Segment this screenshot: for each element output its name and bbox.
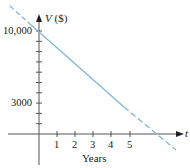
line-extrapolation-left xyxy=(10,6,30,24)
x-tick-label-5: 5 xyxy=(127,140,132,151)
x-axis-arrow-icon xyxy=(176,131,184,137)
x-tick-label-4: 4 xyxy=(108,140,113,151)
x-tick-label-1: 1 xyxy=(54,140,59,151)
x-tick-label-3: 3 xyxy=(90,140,95,151)
x-axis-title: Years xyxy=(82,153,107,164)
y-axis-unit: ($) xyxy=(54,12,67,24)
y-axis-arrow-icon xyxy=(36,14,42,22)
x-tick-label-2: 2 xyxy=(72,140,77,151)
y-tick-label-10000: 10,000 xyxy=(3,26,32,37)
y-axis-var: V xyxy=(45,12,52,24)
x-axis-var: t xyxy=(185,128,188,139)
y-axis-label: V ($) xyxy=(45,13,67,24)
line-data-solid xyxy=(30,24,124,107)
y-tick-label-3000: 3000 xyxy=(11,98,32,109)
